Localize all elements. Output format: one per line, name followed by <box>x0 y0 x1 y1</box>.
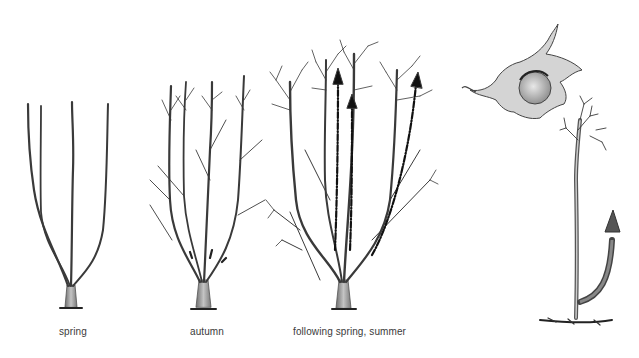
arrow-head-icon <box>333 68 343 84</box>
tree-spring <box>28 102 108 308</box>
hazelnut-icon <box>462 24 582 119</box>
caption-spring: spring <box>59 326 87 337</box>
tree-following-spring <box>266 40 438 309</box>
caption-autumn: autumn <box>190 326 224 337</box>
caption-following-spring-summer: following spring, summer <box>293 326 406 337</box>
growth-arrow-icon <box>580 210 620 302</box>
pruning-diagram: spring autumn following spring, summer <box>0 0 639 358</box>
tree-autumn <box>150 76 265 309</box>
